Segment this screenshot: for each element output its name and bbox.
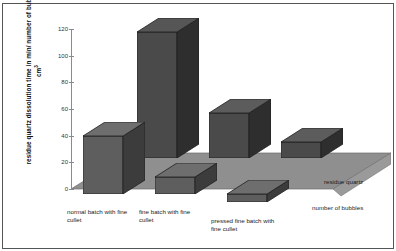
chart-screenshot: residue quartz dissolution time in min/ … [0, 0, 396, 251]
chart-frame: residue quartz dissolution time in min/ … [2, 3, 394, 249]
series-label-number-of-bubbles: number of bubbles [312, 204, 363, 212]
y-tick-label-100: 100 [44, 53, 68, 59]
bar-number-of-bubbles-fine-batch [155, 163, 217, 194]
plot-area: 120 100 80 60 40 20 0 [41, 18, 391, 200]
y-axis-title-unit-exponent: 3 [34, 65, 39, 68]
x-category-label-normal-batch: normal batch with fine cullet [67, 208, 133, 223]
y-tick-label-40: 40 [44, 133, 68, 139]
x-category-label-pressed-fine-batch: pressed fine batch with fine cullet [211, 217, 283, 232]
y-axis-title-text: residue quartz dissolution time in min/ … [25, 0, 32, 164]
bar-residue-quartz-fine-batch [209, 99, 271, 158]
y-tick-label-0: 0 [44, 186, 68, 192]
bar-number-of-bubbles-pressed-fine-batch [227, 180, 289, 202]
bar-residue-quartz-pressed-fine-batch [281, 128, 343, 158]
x-category-label-fine-batch: fine batch with fine cullet [139, 208, 205, 223]
y-tick-label-20: 20 [44, 159, 68, 165]
y-tick-label-80: 80 [44, 79, 68, 85]
bar-residue-quartz-normal-batch [137, 18, 199, 158]
series-label-residue-quartz: residue quartz [324, 178, 363, 186]
bar-number-of-bubbles-normal-batch [83, 122, 145, 194]
y-tick-label-120: 120 [44, 26, 68, 32]
y-tick-label-60: 60 [44, 106, 68, 112]
